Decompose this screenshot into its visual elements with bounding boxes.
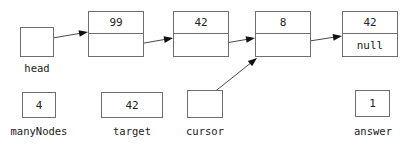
list-node: 99 bbox=[88, 11, 144, 57]
variable-label-manyNodes: manyNodes bbox=[2, 126, 76, 137]
node-link-cell bbox=[174, 34, 228, 56]
variable-label-answer: answer bbox=[348, 126, 398, 137]
variable-box-manyNodes: 4 bbox=[22, 92, 56, 118]
variable-box-answer: 1 bbox=[355, 90, 390, 117]
list-node: 8 bbox=[255, 11, 311, 57]
node-data-cell: 42 bbox=[343, 12, 397, 34]
variable-label-head: head bbox=[20, 63, 54, 74]
node-link-cell bbox=[256, 34, 310, 56]
list-node: 42 bbox=[173, 11, 229, 57]
variable-label-target: target bbox=[101, 126, 163, 137]
variable-label-cursor: cursor bbox=[186, 126, 224, 137]
node-link-cell: null bbox=[343, 34, 397, 56]
node-data-cell: 8 bbox=[256, 12, 310, 34]
node-data-cell: 42 bbox=[174, 12, 228, 34]
node-link-cell bbox=[89, 34, 143, 56]
variable-box-cursor bbox=[187, 90, 223, 118]
linked-list-diagram: 9942842null head4manyNodes42targetcursor… bbox=[0, 0, 418, 146]
variable-box-target: 42 bbox=[101, 92, 163, 118]
variable-box-head bbox=[20, 27, 54, 57]
node-data-cell: 99 bbox=[89, 12, 143, 34]
list-node: 42null bbox=[342, 11, 398, 57]
